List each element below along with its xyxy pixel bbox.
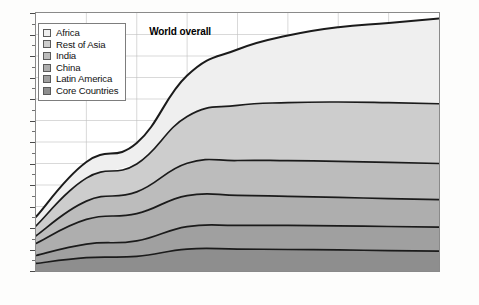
legend-swatch-icon: [43, 87, 51, 95]
x-axis: [35, 274, 440, 294]
legend-swatch-icon: [43, 52, 51, 60]
legend-swatch-icon: [43, 75, 51, 83]
legend-item[interactable]: Rest of Asia: [43, 39, 118, 51]
legend-label: Core Countries: [56, 86, 118, 96]
y-axis: [0, 12, 35, 272]
annotation-world-overall: World overall: [149, 26, 211, 37]
legend-label: Latin America: [56, 74, 112, 84]
legend-swatch-icon: [43, 64, 51, 72]
legend-item[interactable]: Latin America: [43, 73, 118, 85]
legend-item[interactable]: Africa: [43, 27, 118, 39]
legend-label: China: [56, 63, 80, 73]
legend-item[interactable]: Core Countries: [43, 85, 118, 97]
chart-figure: World overall AfricaRest of AsiaIndiaChi…: [0, 0, 479, 305]
legend-label: India: [56, 51, 76, 61]
legend-swatch-icon: [43, 29, 51, 37]
legend-swatch-icon: [43, 40, 51, 48]
legend-label: Rest of Asia: [56, 40, 105, 50]
legend-label: Africa: [56, 28, 80, 38]
legend: AfricaRest of AsiaIndiaChinaLatin Americ…: [38, 23, 126, 101]
legend-item[interactable]: China: [43, 62, 118, 74]
legend-item[interactable]: India: [43, 50, 118, 62]
